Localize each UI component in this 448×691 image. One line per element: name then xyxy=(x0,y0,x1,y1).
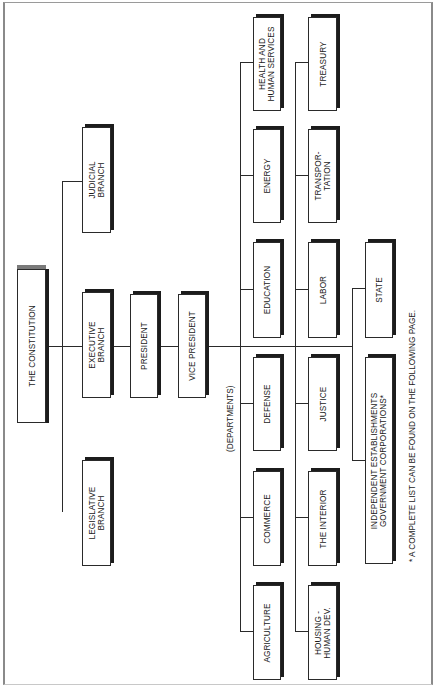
dept-bus-row2 xyxy=(295,62,296,632)
executive-branch-label: EXECUTIVE BRANCH xyxy=(88,321,106,368)
dept-commerce-box: COMMERCE xyxy=(253,471,281,566)
stub-labor xyxy=(295,289,308,290)
dept-justice-box: JUSTICE xyxy=(308,357,337,451)
dept-interior-box: THE INTERIOR xyxy=(308,471,337,566)
dept-energy-label: ENERGY xyxy=(263,158,272,193)
president-box: PRESIDENT xyxy=(130,294,158,398)
branch-bus xyxy=(62,181,63,512)
constitution-label: THE CONSTITUTION xyxy=(27,305,36,387)
legislative-branch-label: LEGISLATIVE BRANCH xyxy=(88,487,106,540)
stub-commerce xyxy=(240,517,253,518)
judicial-branch-box: JUDICIAL BRANCH xyxy=(82,127,111,233)
departments-label: (DEPARTMENTS) xyxy=(226,385,235,452)
dept-education-box: EDUCATION xyxy=(253,242,281,338)
dept-agriculture-box: AGRICULTURE xyxy=(253,585,281,680)
vice-president-label: VICE PRESIDENT xyxy=(188,311,197,381)
dept-state-box: STATE xyxy=(365,242,393,338)
stub-energy xyxy=(240,175,253,176)
president-vp-connector xyxy=(158,346,178,347)
dept-bus-row1 xyxy=(240,62,241,632)
page-frame xyxy=(3,2,433,685)
executive-branch-box: EXECUTIVE BRANCH xyxy=(82,292,111,398)
judicial-connector xyxy=(62,181,82,182)
executive-president-connector xyxy=(110,346,130,347)
dept-labor-box: LABOR xyxy=(308,242,337,338)
dept-state-label: STATE xyxy=(375,277,384,303)
stub-interior xyxy=(295,517,308,518)
dept-energy-box: ENERGY xyxy=(253,129,281,223)
dept-agriculture-label: AGRICULTURE xyxy=(263,603,272,662)
legislative-branch-box: LEGISLATIVE BRANCH xyxy=(82,460,111,566)
judicial-branch-label: JUDICIAL BRANCH xyxy=(88,161,106,198)
vice-president-box: VICE PRESIDENT xyxy=(178,294,206,398)
dept-housing-label: HOUSING - HUMAN DEV. xyxy=(314,607,332,659)
dept-hhs-label: HEALTH AND HUMAN SERVICES xyxy=(258,27,276,102)
stub-education xyxy=(240,289,253,290)
dept-labor-label: LABOR xyxy=(318,276,327,304)
constitution-connector xyxy=(46,346,82,347)
stub-independent xyxy=(352,460,365,461)
dept-transportation-box: TRANSPOR- TATION xyxy=(308,129,337,223)
dept-treasury-box: TREASURY xyxy=(308,17,337,111)
dept-defense-label: DEFENSE xyxy=(263,384,272,423)
dept-defense-box: DEFENSE xyxy=(253,357,281,451)
independent-establishments-box: INDEPENDENT ESTABLISHMENTS GOVERNMENT CO… xyxy=(365,357,393,564)
vp-departments-connector xyxy=(206,346,353,347)
stub-state xyxy=(352,288,365,289)
dept-hhs-box: HEALTH AND HUMAN SERVICES xyxy=(253,17,281,111)
independent-establishments-label: INDEPENDENT ESTABLISHMENTS GOVERNMENT CO… xyxy=(370,392,388,529)
stub-agriculture xyxy=(240,631,253,632)
dept-housing-box: HOUSING - HUMAN DEV. xyxy=(308,585,337,680)
constitution-box: THE CONSTITUTION xyxy=(17,269,46,423)
stub-hhs xyxy=(240,62,253,63)
stub-housing xyxy=(295,631,308,632)
dept-education-label: EDUCATION xyxy=(263,266,272,315)
stub-justice xyxy=(295,403,308,404)
stub-transportation xyxy=(295,175,308,176)
president-label: PRESIDENT xyxy=(140,322,149,370)
dept-treasury-label: TREASURY xyxy=(318,41,327,86)
dept-bus-row3 xyxy=(352,288,353,460)
stub-defense xyxy=(240,403,253,404)
footnote: * A COMPLETE LIST CAN BE FOUND ON THE FO… xyxy=(408,310,417,562)
dept-commerce-label: COMMERCE xyxy=(263,494,272,543)
dept-transportation-label: TRANSPOR- TATION xyxy=(314,151,332,200)
stub-treasury xyxy=(295,62,308,63)
dept-interior-label: THE INTERIOR xyxy=(318,489,327,548)
dept-justice-label: JUSTICE xyxy=(318,387,327,422)
